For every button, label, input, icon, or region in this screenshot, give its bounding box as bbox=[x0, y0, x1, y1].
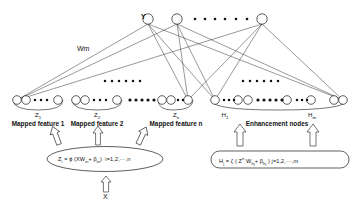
mapped-formula-arrows bbox=[48, 125, 151, 146]
arrow-to-mapped-2 bbox=[93, 126, 103, 145]
arrow-x-to-mapped-formula bbox=[101, 176, 111, 192]
output-layer-ellipsis bbox=[194, 18, 249, 21]
arrow-to-mapped-n bbox=[134, 125, 151, 146]
input-arrow bbox=[101, 176, 111, 192]
group-n-sublabel: Zn bbox=[163, 111, 189, 120]
output-layer-label: Y bbox=[141, 13, 146, 20]
edge-hm-y1 bbox=[148, 24, 343, 100]
z2-node-1 bbox=[72, 96, 81, 105]
enhancement-last-sublabel: Hm bbox=[299, 111, 325, 120]
connection-edges bbox=[17, 24, 343, 100]
enhancement-formula-arrows bbox=[234, 124, 319, 146]
z2-node-last bbox=[113, 96, 122, 105]
mapped-feature-row-ellipsis bbox=[104, 80, 142, 83]
edge-z1-y2 bbox=[17, 24, 177, 100]
edge-z1-y1 bbox=[17, 24, 148, 100]
z2-node-2 bbox=[81, 96, 90, 105]
group-2-name: Mapped feature 2 bbox=[61, 120, 133, 127]
z1-node-1 bbox=[13, 96, 22, 105]
group-2-sublabel: Z2 bbox=[84, 111, 110, 120]
edge-hm-y3 bbox=[262, 24, 343, 100]
input-label: X bbox=[103, 193, 108, 200]
edge-hm-y2 bbox=[177, 24, 343, 100]
group-gap-ellipsis bbox=[128, 98, 155, 101]
z1-inner-dots bbox=[34, 99, 49, 102]
mapped-feature-group-1 bbox=[13, 96, 63, 110]
mapped-feature-group-n bbox=[158, 96, 193, 110]
weight-label: Wm bbox=[77, 45, 89, 52]
hm-node-last bbox=[339, 96, 348, 105]
group-n-name: Mapped feature n bbox=[139, 120, 213, 127]
enhancement-first-sublabel: H1 bbox=[212, 111, 238, 120]
group-1-sublabel: Z1 bbox=[25, 111, 51, 120]
enhancement-group-name: Enhancement nodes bbox=[229, 120, 325, 127]
zn-node-1 bbox=[158, 96, 167, 105]
zn-node-last bbox=[184, 96, 193, 105]
mapped-feature-group-2 bbox=[72, 96, 122, 110]
edge-zn-y1 bbox=[148, 24, 188, 100]
edge-h1-y3 bbox=[215, 24, 262, 100]
enhancement-formula: Hj = ζ ( Zn Whj+ βhj ) j=1,2,···,m bbox=[219, 156, 298, 166]
h-mid-node-1 bbox=[244, 96, 253, 105]
z2-inner-dots bbox=[93, 99, 108, 102]
h-mid-node-2 bbox=[283, 96, 292, 105]
zn-inner-dots bbox=[177, 99, 185, 102]
enhancement-brace bbox=[211, 100, 347, 110]
arrow-to-enhancement-right bbox=[307, 124, 319, 146]
enhancement-row-ellipsis bbox=[242, 80, 280, 83]
h1-node-1 bbox=[211, 96, 220, 105]
network-diagram-svg bbox=[0, 0, 356, 206]
zn-node-2 bbox=[167, 96, 176, 105]
z1-node-2 bbox=[22, 96, 31, 105]
mapped-feature-formula: Zi = ϕ (XWei+ βei) i=1,2,···,n bbox=[58, 156, 131, 164]
arrow-to-enhancement-left bbox=[234, 124, 246, 146]
output-node-2 bbox=[172, 14, 182, 24]
arrow-to-mapped-1 bbox=[48, 125, 64, 146]
diagram-canvas: Y Wm X Z1 Z2 Zn H1 Hm Mapped feature 1 M… bbox=[0, 0, 356, 206]
hm-node-2 bbox=[330, 96, 339, 105]
edge-h1-y1 bbox=[148, 24, 215, 100]
output-node-3 bbox=[257, 14, 267, 24]
z1-node-last bbox=[54, 96, 63, 105]
enhancement-node-group bbox=[211, 96, 348, 110]
